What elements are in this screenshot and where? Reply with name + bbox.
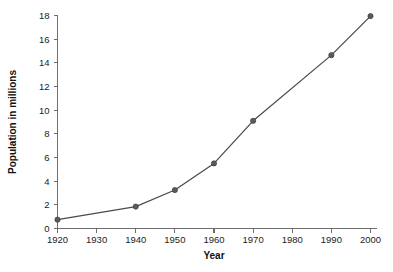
y-axis-tick-label: 2 — [44, 199, 49, 210]
x-axis-title: Year — [203, 250, 224, 261]
y-axis-tick-label: 18 — [39, 10, 50, 21]
x-axis-tick-label: 1930 — [86, 234, 107, 245]
x-axis-tick-label: 1970 — [243, 234, 264, 245]
y-axis-tick-label: 4 — [44, 176, 49, 187]
data-point-marker — [211, 161, 216, 166]
y-axis-tick-label: 16 — [39, 34, 50, 45]
x-axis-tick-label: 2000 — [360, 234, 381, 245]
x-axis-tick-label: 1980 — [282, 234, 303, 245]
data-point-marker — [329, 53, 334, 58]
y-axis-tick-label: 0 — [44, 223, 49, 234]
y-axis-tick-label: 14 — [39, 57, 50, 68]
data-point-marker — [133, 204, 138, 209]
chart-canvas: 024681012141618 192019301940195019601970… — [0, 0, 393, 272]
x-axis-tick-label: 1960 — [203, 234, 224, 245]
data-point-marker — [172, 187, 177, 192]
y-axis-tick-mark-group — [54, 16, 58, 229]
data-point-marker — [251, 118, 256, 123]
data-point-marker — [368, 13, 373, 18]
x-axis-tick-label: 1940 — [125, 234, 146, 245]
y-axis-tick-label: 10 — [39, 105, 50, 116]
population-series-line — [58, 16, 371, 220]
y-axis-tick-label: 12 — [39, 81, 50, 92]
y-axis-tick-label: 6 — [44, 152, 49, 163]
data-point-marker — [55, 217, 60, 222]
x-axis-tick-label-group: 192019301940195019601970198019902000 — [47, 234, 381, 245]
population-series-markers — [55, 13, 373, 222]
x-axis-tick-label: 1990 — [321, 234, 342, 245]
y-axis-title: Population in millions — [7, 70, 18, 174]
x-axis-tick-label: 1950 — [164, 234, 185, 245]
population-line-chart: 024681012141618 192019301940195019601970… — [0, 0, 393, 272]
x-axis-tick-mark-group — [58, 229, 371, 233]
x-axis-tick-label: 1920 — [47, 234, 68, 245]
y-axis-tick-label-group: 024681012141618 — [39, 10, 50, 234]
y-axis-tick-label: 8 — [44, 128, 49, 139]
